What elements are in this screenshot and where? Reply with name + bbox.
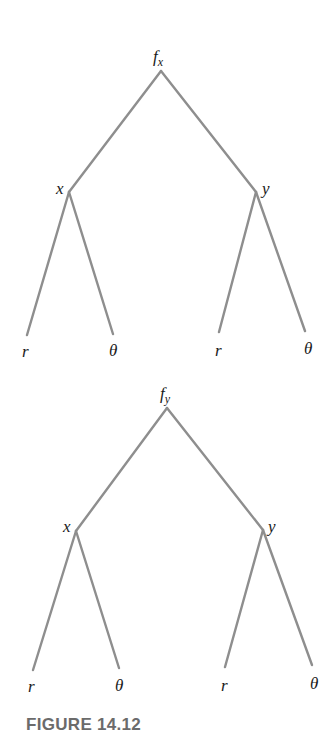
root-label: fx bbox=[153, 47, 164, 69]
edge-fx-y bbox=[161, 71, 256, 192]
tree-fx: fx x y r θ r θ bbox=[22, 47, 312, 361]
leaf-r-label: r bbox=[221, 676, 228, 695]
edge-y-theta bbox=[256, 192, 305, 331]
root-label: fy bbox=[160, 384, 171, 406]
node-y-label: y bbox=[260, 179, 270, 198]
leaf-r-label: r bbox=[22, 342, 29, 361]
leaf-theta-label: θ bbox=[310, 674, 318, 693]
edge-fy-x bbox=[76, 408, 167, 531]
figure-caption: FIGURE 14.12 bbox=[26, 715, 141, 735]
tree-fy: fy x y r θ r θ bbox=[28, 384, 318, 696]
edge-x-r bbox=[27, 192, 69, 335]
leaf-r-label: r bbox=[28, 677, 35, 696]
leaf-theta-label: θ bbox=[304, 339, 312, 358]
edge-fy-y bbox=[167, 408, 263, 530]
node-x-label: x bbox=[62, 517, 71, 536]
edge-x-theta bbox=[69, 192, 113, 334]
edge-y-theta bbox=[263, 530, 312, 665]
edge-y-r bbox=[225, 530, 263, 667]
leaf-r-label: r bbox=[215, 341, 222, 360]
node-x-label: x bbox=[55, 179, 64, 198]
tree-diagrams: fx x y r θ r θ fy x y r θ r θ bbox=[0, 0, 336, 744]
edge-fx-x bbox=[69, 71, 161, 192]
leaf-theta-label: θ bbox=[115, 676, 123, 695]
edge-x-theta bbox=[76, 531, 119, 668]
edge-x-r bbox=[33, 531, 76, 670]
edge-y-r bbox=[219, 192, 256, 332]
leaf-theta-label: θ bbox=[109, 341, 117, 360]
node-y-label: y bbox=[266, 517, 276, 536]
